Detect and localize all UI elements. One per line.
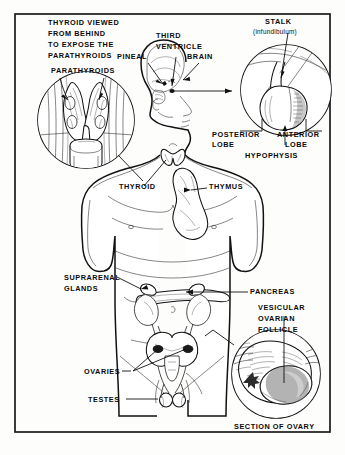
label-brain: BRAIN <box>187 52 213 61</box>
label-stalk: STALK <box>265 17 292 26</box>
label-thymus: THYMUS <box>209 182 243 191</box>
label-thyroid: THYROID <box>119 182 156 191</box>
inset-thyroid-posterior <box>38 72 134 170</box>
inset-thyroid-heading-line-3: TO EXPOSE THE <box>48 40 114 49</box>
label-suprarenal-line-2: GLANDS <box>64 284 98 293</box>
label-suprarenal-line-1: SUPRARENAL <box>64 273 120 282</box>
inset-thyroid-heading-line-1: THYROID VIEWED <box>48 18 119 27</box>
label-testes: TESTES <box>88 395 120 404</box>
label-vesicular-line-2: OVARIAN <box>258 314 295 323</box>
label-pineal: PINEAL <box>117 52 147 61</box>
label-anterior-lobe-line-1: ANTERIOR <box>277 130 320 139</box>
label-hypophysis: HYPOPHYSIS <box>245 151 298 160</box>
label-parathyroids: PARATHYROIDS <box>51 66 115 75</box>
label-stalk-sub: (infundibulum) <box>253 28 297 36</box>
inset-thyroid-heading-line-4: PARATHYROIDS <box>48 51 112 60</box>
label-pancreas: PANCREAS <box>250 287 295 296</box>
label-posterior-lobe-line-2: LOBE <box>212 140 234 149</box>
label-third: THIRD <box>156 31 181 40</box>
label-ovaries: OVARIES <box>84 367 120 376</box>
label-ventricle: VENTRICLE <box>156 42 202 51</box>
label-vesicular-line-3: FOLLICLE <box>258 325 298 334</box>
caption-section-of-ovary: SECTION OF OVARY <box>234 422 315 431</box>
endocrine-system-diagram: THYROID VIEWED FROM BEHIND TO EXPOSE THE… <box>0 0 345 455</box>
inset-thyroid-heading-line-2: FROM BEHIND <box>48 29 106 38</box>
label-posterior-lobe-line-1: POSTERIOR <box>212 130 260 139</box>
label-vesicular-line-1: VESICULAR <box>258 303 305 312</box>
label-anterior-lobe-line-2: LOBE <box>285 140 307 149</box>
